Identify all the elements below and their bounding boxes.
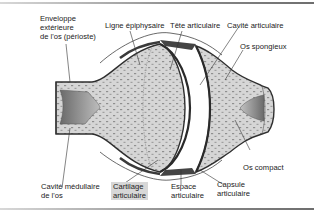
label-epiphyseal-line: Ligne épiphysaire — [105, 21, 165, 30]
label-periosteum-line2: extérieure — [40, 23, 96, 32]
label-medullary-line2: de l'os — [41, 191, 100, 200]
label-periosteum: Enveloppe extérieure de l'os (périoste) — [40, 14, 96, 41]
label-joint-capsule: Capsule articulaire — [217, 180, 250, 198]
label-periosteum-line1: Enveloppe — [40, 14, 96, 23]
label-joint-space-line1: Espace — [171, 182, 204, 191]
label-capsule-line1: Capsule — [217, 180, 250, 189]
label-articular-cartilage: Cartilage articulaire — [111, 182, 148, 200]
label-medullary-cavity: Cavité médullaire de l'os — [41, 182, 100, 200]
diagram-frame: Enveloppe extérieure de l'os (périoste) … — [0, 0, 314, 215]
right-bone — [196, 46, 274, 172]
label-articular-cavity: Cavité articulaire — [227, 21, 284, 30]
label-cartilage-line1: Cartilage — [113, 182, 146, 191]
label-cartilage-line2: articulaire — [113, 191, 146, 200]
label-articular-head: Tête articulaire — [170, 21, 220, 30]
label-medullary-line1: Cavité médullaire — [41, 182, 100, 191]
label-periosteum-line3: de l'os (périoste) — [40, 32, 96, 41]
left-bone — [56, 42, 190, 174]
label-joint-space: Espace articulaire — [171, 182, 204, 200]
label-capsule-line2: articulaire — [217, 189, 250, 198]
label-compact-bone: Os compact — [243, 163, 284, 172]
label-spongy-bone: Os spongieux — [240, 42, 286, 51]
label-joint-space-line2: articulaire — [171, 191, 204, 200]
